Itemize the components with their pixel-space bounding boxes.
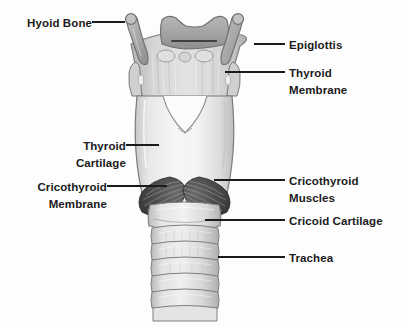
label-cricothyroid-membrane: Cricothyroid Membrane: [14, 179, 107, 213]
larynx-diagram: Hyoid Bone Epiglottis Thyroid Membrane T…: [0, 0, 407, 327]
trachea-shape: [151, 225, 219, 321]
label-cricoid-cartilage: Cricoid Cartilage: [289, 213, 383, 230]
label-epiglottis: Epiglottis: [289, 37, 342, 54]
label-thyroid-cartilage: Thyroid Cartilage: [44, 138, 126, 172]
label-thyroid-membrane: Thyroid Membrane: [289, 65, 347, 99]
thyroid-cartilage-shape: [135, 96, 234, 197]
label-cricothyroid-muscles: Cricothyroid Muscles: [289, 173, 359, 207]
epiglottis-shape: [161, 16, 229, 49]
label-trachea: Trachea: [289, 250, 333, 267]
label-hyoid-bone: Hyoid Bone: [14, 15, 92, 32]
